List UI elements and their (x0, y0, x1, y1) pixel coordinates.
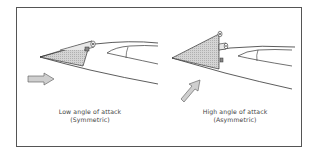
caption-high-angle: High angle of attack (Asymmetric) (195, 108, 275, 124)
diagram-art (0, 0, 317, 157)
low-aoa-vortex-sheet (40, 41, 95, 66)
low-aoa-flow-arrow (28, 73, 54, 85)
caption-high-line1: High angle of attack (195, 108, 275, 116)
high-aoa-vortex-sheet (172, 31, 228, 69)
high-aoa-flow-arrow (181, 80, 200, 102)
caption-low-line2: (Symmetric) (50, 116, 130, 124)
caption-high-line2: (Asymmetric) (195, 116, 275, 124)
low-aoa-forebody (40, 42, 158, 84)
caption-low-line1: Low angle of attack (50, 108, 130, 116)
caption-low-angle: Low angle of attack (Symmetric) (50, 108, 130, 124)
